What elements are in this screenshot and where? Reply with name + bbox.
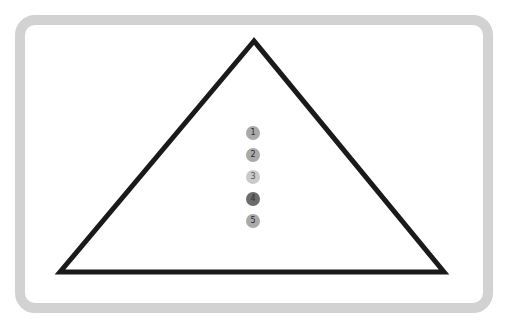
pyramid-diagram [0, 0, 513, 327]
step-label: 4 [250, 195, 255, 203]
step-label: 3 [250, 173, 255, 181]
step-label: 2 [250, 151, 255, 159]
step-marker-1: 1 [246, 126, 260, 140]
step-marker-5: 5 [246, 214, 260, 228]
step-marker-2: 2 [246, 148, 260, 162]
step-label: 5 [250, 217, 255, 225]
step-marker-3: 3 [246, 170, 260, 184]
step-marker-4: 4 [246, 192, 260, 206]
step-label: 1 [250, 129, 255, 137]
